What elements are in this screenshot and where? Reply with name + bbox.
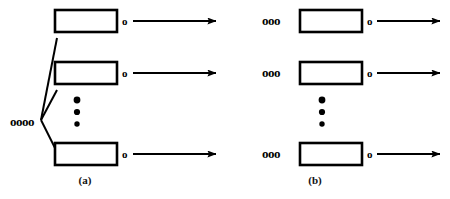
process-box[interactable] [55,10,117,32]
panel-b-vertical-ellipsis-icon [319,97,326,127]
panel-a-row-2: o [55,62,216,84]
panel-a-row-1: o [55,10,216,32]
output-circle-icon: o [367,148,373,160]
panel-b-row-3-input-circles[interactable]: ooo [262,147,280,160]
panel-b-row-2: o [300,62,440,84]
panel-a-row-3: o [55,143,216,165]
panel-b-row-3: o [300,143,440,165]
output-circle-icon: o [122,148,128,160]
process-box[interactable] [300,62,362,84]
output-circle-icon: o [122,15,128,27]
process-box[interactable] [55,62,117,84]
panel-b: o o o [300,10,440,165]
panel-b-row-2-input-circles[interactable]: ooo [262,66,280,79]
process-box[interactable] [300,143,362,165]
panel-a: o o o [41,10,216,165]
output-circle-icon: o [367,15,373,27]
process-box[interactable] [55,143,117,165]
panel-a-connector-lines [41,38,57,152]
output-circle-icon: o [122,67,128,79]
panel-b-row-1: o [300,10,440,32]
panel-b-row-1-input-circles[interactable]: ooo [262,14,280,27]
panel-a-shared-input-circles[interactable]: oooo [10,115,34,128]
output-circle-icon: o [367,67,373,79]
figure-canvas: o o o o o [0,0,450,199]
panel-b-caption: (b) [285,174,345,186]
panel-a-caption: (a) [55,174,115,186]
process-box[interactable] [300,10,362,32]
panel-a-vertical-ellipsis-icon [74,97,81,127]
